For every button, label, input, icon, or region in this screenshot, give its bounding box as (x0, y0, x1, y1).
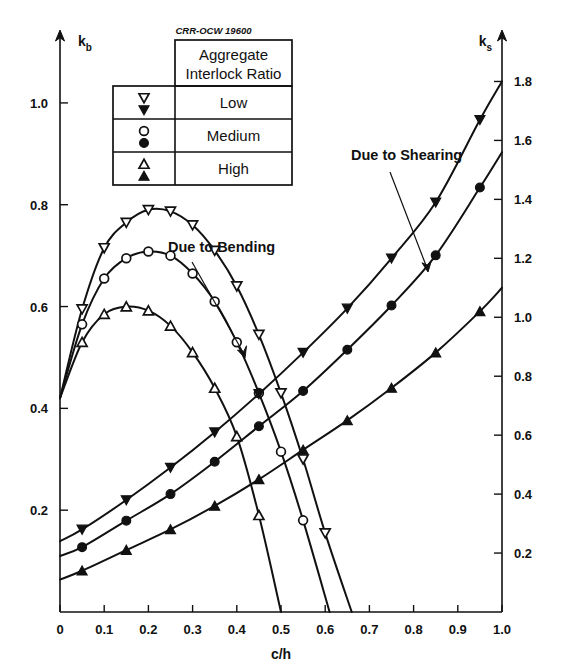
legend-row-label: Low (220, 94, 248, 111)
data-point-marker (77, 525, 87, 534)
x-tick-label: 1.0 (493, 622, 511, 637)
data-point-marker (475, 116, 485, 125)
legend-symbol-filled (140, 139, 149, 148)
x-tick-label: 0 (56, 622, 63, 637)
data-point-marker (387, 301, 396, 310)
right-axis-name: ks (479, 33, 493, 53)
data-point-marker (78, 320, 87, 329)
data-point-marker (254, 330, 264, 339)
series-line (60, 209, 352, 612)
data-point-marker (320, 529, 330, 538)
annotation-bending-leader (192, 262, 244, 354)
legend-symbol-filled (139, 106, 149, 115)
y-right-tick-label: 0.2 (514, 546, 532, 561)
y-right-tick-label: 1.8 (514, 74, 532, 89)
data-point-marker (343, 345, 352, 354)
data-point-marker (476, 183, 485, 192)
x-tick-label: 0.6 (316, 622, 334, 637)
chart-svg: 00.10.20.30.40.50.60.70.80.91.0c/h0.20.4… (0, 0, 584, 667)
legend-symbol-open (140, 127, 149, 136)
legend-title-line1: Aggregate (199, 46, 268, 63)
series-line (60, 251, 330, 612)
x-tick-label: 0.3 (184, 622, 202, 637)
data-point-marker (122, 254, 131, 263)
chart-figure: 00.10.20.30.40.50.60.70.80.91.0c/h0.20.4… (0, 0, 584, 667)
legend-symbol-filled (139, 171, 149, 180)
legend-row-label: High (218, 160, 249, 177)
y-left-tick-label: 1.0 (30, 96, 48, 111)
legend-title-line2: Interlock Ratio (186, 65, 282, 82)
data-point-marker (277, 447, 286, 456)
data-point-marker (143, 306, 153, 315)
data-point-marker (431, 251, 440, 260)
x-tick-label: 0.9 (449, 622, 467, 637)
data-point-marker (299, 516, 308, 525)
data-point-marker (210, 501, 220, 510)
legend-row-label: Medium (207, 127, 260, 144)
data-point-marker (232, 282, 242, 291)
x-tick-label: 0.7 (360, 622, 378, 637)
data-point-marker (298, 455, 308, 464)
y-right-tick-label: 1.4 (514, 192, 533, 207)
data-point-marker (255, 422, 264, 431)
data-point-marker (210, 457, 219, 466)
data-point-marker (254, 511, 264, 520)
x-tick-label: 0.1 (95, 622, 113, 637)
y-right-tick-label: 1.2 (514, 251, 532, 266)
legend-body-box (113, 86, 292, 185)
x-tick-label: 0.4 (228, 622, 247, 637)
x-axis-label: c/h (271, 646, 291, 662)
y-right-tick-label: 1.6 (514, 133, 532, 148)
y-left-tick-label: 0.4 (30, 401, 49, 416)
data-point-marker (210, 383, 220, 392)
annotation-shearing-label: Due to Shearing (351, 147, 462, 163)
x-tick-label: 0.5 (272, 622, 290, 637)
annotation-bending-label: Due to Bending (168, 239, 275, 255)
data-point-marker (78, 543, 87, 552)
data-point-marker (232, 432, 242, 441)
series-line (60, 288, 502, 580)
left-axis-name: kb (78, 33, 92, 53)
y-right-tick-label: 0.8 (514, 369, 532, 384)
y-right-tick-label: 0.6 (514, 428, 532, 443)
data-point-marker (99, 244, 109, 253)
data-point-marker (166, 490, 175, 499)
data-point-marker (77, 305, 87, 314)
data-point-marker (77, 337, 87, 346)
x-tick-label: 0.8 (405, 622, 423, 637)
y-left-tick-label: 0.8 (30, 198, 48, 213)
y-right-tick-label: 0.4 (514, 487, 533, 502)
data-point-marker (121, 545, 131, 554)
data-point-marker (166, 207, 176, 216)
legend-symbol-open (139, 94, 149, 103)
data-point-marker (144, 247, 153, 256)
data-point-marker (100, 274, 109, 283)
data-point-marker (77, 566, 87, 575)
data-point-marker (166, 525, 176, 534)
y-left-tick-label: 0.6 (30, 300, 48, 315)
data-point-marker (299, 387, 308, 396)
data-point-marker (122, 516, 131, 525)
data-point-marker (276, 389, 286, 398)
legend-symbol-open (139, 159, 149, 168)
data-point-marker (431, 198, 441, 207)
figure-code-label: CRR-OCW 19600 (175, 25, 252, 36)
y-left-tick-label: 0.2 (30, 503, 48, 518)
data-point-marker (188, 269, 197, 278)
x-tick-label: 0.2 (139, 622, 157, 637)
y-right-tick-label: 1.0 (514, 310, 532, 325)
